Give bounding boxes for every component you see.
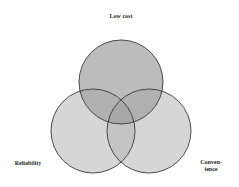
label-convenience-line1: Conven- [193,159,229,166]
venn-diagram: Low cost Reliability Conven- ience [0,0,239,187]
label-convenience-line2: ience [193,166,229,173]
label-convenience: Conven- ience [193,159,229,173]
label-low-cost: Low cost [101,13,141,20]
label-reliability: Reliability [8,160,48,167]
